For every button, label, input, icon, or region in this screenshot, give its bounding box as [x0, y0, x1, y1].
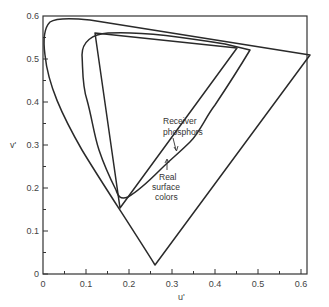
svg-text:Receiver: Receiver: [163, 116, 197, 126]
chromaticity-chart: 0 0.1 0.2 0.3 0.4 0.5 0.6 v' 0 0.1 0.2 0…: [0, 0, 329, 307]
annotation-real-surface-colors: Real surface colors: [152, 159, 180, 202]
x-axis-label: u': [178, 292, 185, 302]
y-axis: [43, 38, 48, 275]
svg-text:surface: surface: [152, 182, 180, 192]
y-tick: 0.4: [26, 97, 39, 107]
y-tick: 0.2: [26, 183, 39, 193]
y-tick: 0.6: [26, 11, 39, 21]
y-tick: 0.3: [26, 140, 39, 150]
x-tick: 0.3: [166, 279, 179, 289]
annotation-receiver-phosphors: Receiver phosphors: [163, 116, 203, 151]
x-tick: 0.5: [252, 279, 265, 289]
x-tick: 0.1: [80, 279, 93, 289]
svg-text:phosphors: phosphors: [163, 127, 203, 137]
y-tick: 0.5: [26, 54, 39, 64]
y-tick: 0: [34, 269, 39, 279]
svg-text:Real: Real: [159, 172, 177, 182]
x-tick: 0.4: [209, 279, 222, 289]
y-tick: 0.1: [26, 226, 39, 236]
spectrum-locus: [44, 19, 310, 265]
x-tick: 0.2: [123, 279, 136, 289]
svg-text:colors: colors: [155, 192, 178, 202]
x-tick: 0.6: [295, 279, 308, 289]
y-tick-labels: 0 0.1 0.2 0.3 0.4 0.5 0.6: [26, 11, 39, 279]
x-axis: [65, 269, 302, 274]
x-tick-labels: 0 0.1 0.2 0.3 0.4 0.5 0.6: [40, 279, 307, 289]
y-axis-label: v': [10, 140, 17, 150]
x-tick: 0: [40, 279, 45, 289]
